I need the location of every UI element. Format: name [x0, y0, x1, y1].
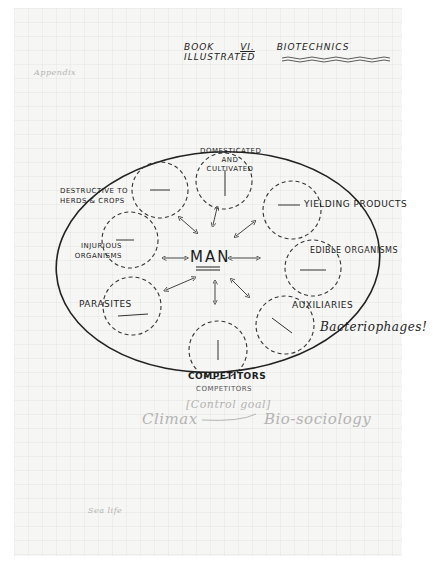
label-competitors: COMPETITORS	[188, 371, 266, 381]
label-yielding-products: YIELDING PRODUCTS	[304, 199, 407, 209]
note-bacteriophages: Bacteriophages!	[320, 320, 427, 334]
label-domesticated: DOMESTICATED AND CULTIVATED	[200, 147, 260, 174]
label-destructive: DESTRUCTIVE TO HERDS & CROPS	[60, 186, 130, 206]
center-label-man: MAN	[190, 248, 230, 266]
caption-competitors: COMPETITORS	[196, 385, 252, 393]
note-bio-sociology: Bio-sociology	[264, 410, 371, 428]
label-parasites: PARASITES	[79, 299, 132, 309]
label-injurious-organisms: INJURIOUS ORGANISMS	[52, 241, 122, 261]
note-climax: Climax	[142, 410, 198, 428]
node-circle-yielding	[263, 181, 321, 239]
note-control-goal: [Control goal]	[186, 398, 271, 411]
label-edible-organisms: EDIBLE ORGANISMS	[310, 246, 398, 255]
biotechnics-diagram	[0, 0, 436, 561]
label-auxiliaries: AUXILIARIES	[292, 300, 353, 310]
margin-note-bottom: Sea life	[88, 506, 122, 515]
